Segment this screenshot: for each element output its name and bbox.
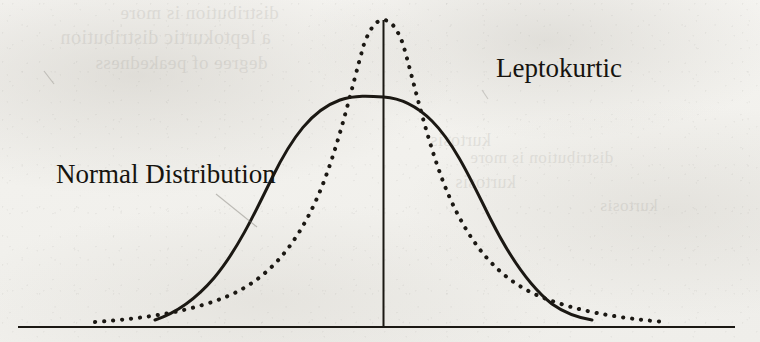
leptokurtic-label: Leptokurtic bbox=[496, 55, 622, 82]
stray-pencil-mark-right bbox=[482, 90, 488, 99]
normal-label-leader-line bbox=[216, 194, 257, 227]
normal-distribution-label: Normal Distribution bbox=[56, 161, 276, 188]
distribution-figure: distribution is more a leptokurtic distr… bbox=[0, 0, 760, 342]
stray-pencil-mark bbox=[44, 71, 54, 84]
normal-distribution-curve bbox=[155, 96, 592, 320]
